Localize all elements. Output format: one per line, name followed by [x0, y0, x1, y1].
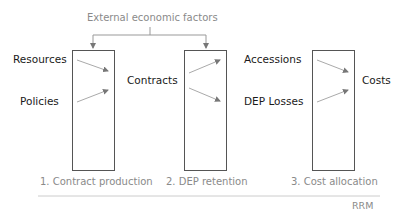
stage-label-2: 2. DEP retention	[166, 176, 248, 187]
footer-label: RRM	[352, 200, 373, 211]
costs-label: Costs	[362, 74, 391, 86]
dep-losses-label: DEP Losses	[244, 95, 303, 107]
policies-label: Policies	[20, 95, 59, 107]
resources-label: Resources	[13, 53, 67, 65]
stage-label-3: 3. Cost allocation	[291, 176, 378, 187]
stage-label-1: 1. Contract production	[40, 176, 153, 187]
contracts-label: Contracts	[127, 74, 178, 86]
accessions-label: Accessions	[244, 53, 301, 65]
